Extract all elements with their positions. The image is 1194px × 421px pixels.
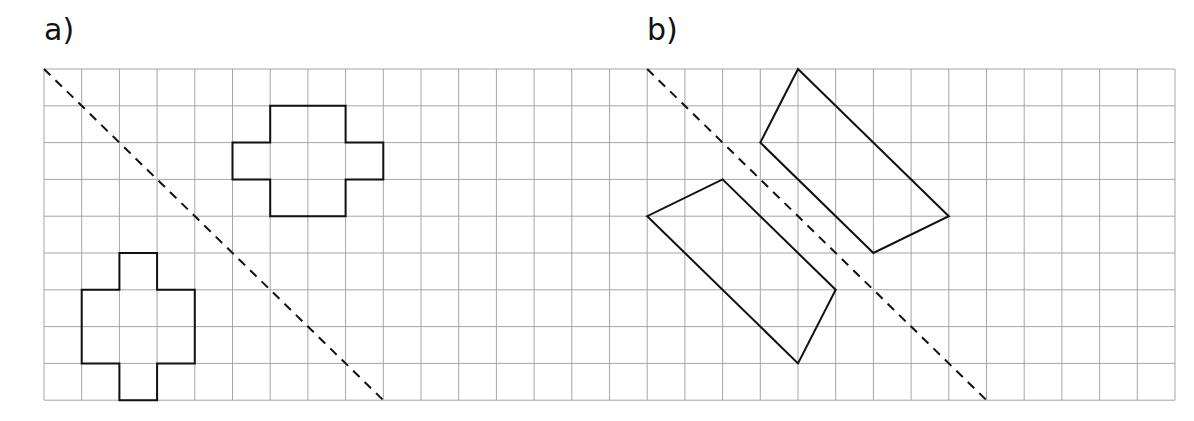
grid-diagram (0, 0, 1194, 421)
mirror-lines-layer (44, 69, 987, 400)
part-b-mirror-line (647, 69, 986, 400)
part-b-quadrilateral-upper-right (760, 69, 949, 253)
shapes-layer (82, 69, 949, 400)
part-b-quadrilateral-lower-left (647, 179, 836, 363)
grid-lines (44, 69, 1175, 400)
part-a-mirror-line (44, 69, 383, 400)
